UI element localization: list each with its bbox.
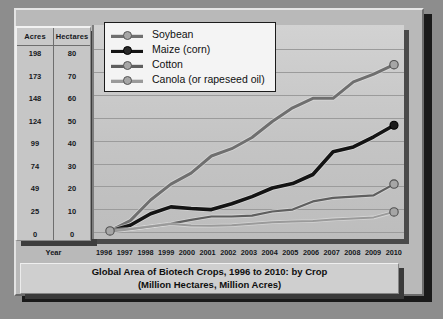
acres-tick: 25	[17, 208, 53, 216]
x-tick-label: 2003	[241, 248, 257, 257]
acres-tick: 0	[17, 231, 53, 239]
chart-title: Global Area of Biotech Crops, 1996 to 20…	[92, 266, 328, 279]
x-tick-label: 2007	[324, 248, 340, 257]
legend-marker-canola	[111, 74, 143, 86]
hectares-tick: 0	[54, 231, 90, 239]
x-tick-label: 2008	[344, 248, 360, 257]
chart-legend: Soybean Maize (corn) Cotton Canola (or r…	[104, 22, 276, 92]
x-tick-label: 1997	[117, 248, 133, 257]
x-tick-label: 2001	[199, 248, 215, 257]
legend-label-soybean: Soybean	[152, 29, 193, 40]
axis-column-hectares: 80 70 60 50 40 30 20 10 0	[54, 46, 90, 240]
hectares-tick: 40	[54, 140, 90, 148]
column-header-acres: Acres	[17, 28, 54, 45]
legend-item-cotton: Cotton	[111, 57, 269, 72]
legend-label-canola: Canola (or rapeseed oil)	[152, 74, 265, 85]
x-tick-label: 2004	[262, 248, 278, 257]
axis-table-header: Acres Hectares	[17, 28, 90, 46]
x-tick-label: 2010	[386, 248, 402, 257]
legend-marker-maize	[111, 44, 143, 56]
hectares-tick: 10	[54, 208, 90, 216]
hectares-tick: 20	[54, 185, 90, 193]
legend-label-cotton: Cotton	[152, 59, 183, 70]
acres-tick: 74	[17, 163, 53, 171]
x-tick-label: 2009	[365, 248, 381, 257]
series-endpoint-marker	[390, 121, 398, 129]
column-header-hectares: Hectares	[54, 28, 90, 45]
acres-tick: 49	[17, 185, 53, 193]
chart-subtitle: (Million Hectares, Million Acres)	[138, 279, 281, 292]
x-axis-title: Year	[15, 248, 92, 257]
hectares-tick: 50	[54, 118, 90, 126]
legend-marker-cotton	[111, 59, 143, 71]
acres-tick: 99	[17, 140, 53, 148]
hectares-tick: 60	[54, 95, 90, 103]
hectares-tick: 80	[54, 50, 90, 58]
acres-tick: 173	[17, 73, 53, 81]
acres-tick: 148	[17, 95, 53, 103]
axis-value-table: Acres Hectares 198 173 148 124 99 74 49 …	[15, 26, 91, 241]
chart-title-box: Global Area of Biotech Crops, 1996 to 20…	[20, 263, 399, 294]
axis-table-body: 198 173 148 124 99 74 49 25 0 80 70 60 5…	[17, 46, 90, 240]
legend-label-maize: Maize (corn)	[152, 44, 210, 55]
series-endpoint-marker	[390, 208, 398, 216]
x-axis-tick-labels: 1996199719981999200020012002200320042005…	[92, 248, 404, 257]
x-tick-label: 1998	[137, 248, 153, 257]
x-axis: Year 19961997199819992000200120022003200…	[15, 244, 404, 261]
hectares-tick: 30	[54, 163, 90, 171]
legend-item-canola: Canola (or rapeseed oil)	[111, 72, 269, 87]
hectares-tick: 70	[54, 73, 90, 81]
series-endpoint-marker	[390, 61, 398, 69]
acres-tick: 124	[17, 118, 53, 126]
series-endpoint-marker	[390, 180, 398, 188]
legend-item-maize: Maize (corn)	[111, 42, 269, 57]
series-endpoint-marker	[106, 227, 114, 235]
x-tick-label: 2006	[303, 248, 319, 257]
chart-screenshot: Acres Hectares 198 173 148 124 99 74 49 …	[0, 0, 443, 319]
acres-tick: 198	[17, 50, 53, 58]
x-tick-label: 2002	[220, 248, 236, 257]
x-tick-label: 2005	[282, 248, 298, 257]
x-tick-label: 2000	[179, 248, 195, 257]
x-tick-label: 1999	[158, 248, 174, 257]
legend-item-soybean: Soybean	[111, 27, 269, 42]
axis-column-acres: 198 173 148 124 99 74 49 25 0	[17, 46, 54, 240]
legend-marker-soybean	[111, 29, 143, 41]
x-tick-label: 1996	[96, 248, 112, 257]
